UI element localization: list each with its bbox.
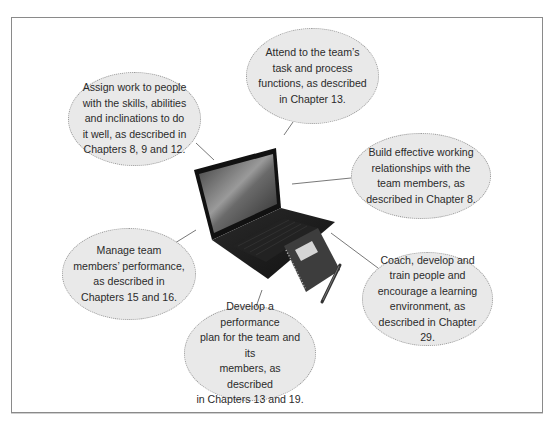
bubble-build-relationships: Build effective working relationships wi…: [351, 133, 491, 219]
bubble-text-line: train people and: [373, 268, 482, 284]
bubble-text-line: plan for the team and its: [195, 330, 305, 361]
bubble-text-line: Coach, develop and: [373, 253, 482, 269]
bubble-coach-develop: Coach, develop and train people and enco…: [362, 252, 493, 346]
bubble-text-line: Develop a performance: [195, 299, 305, 330]
bubble-text-line: members, as described: [195, 361, 305, 392]
bubble-text-line: members’ performance,: [73, 259, 184, 275]
bubble-text-line: and inclinations to do: [83, 111, 187, 127]
bubble-text-line: Assign work to people: [83, 80, 187, 96]
bubble-text-line: team members, as: [366, 176, 476, 192]
bubble-text-line: in Chapters 13 and 19.: [195, 392, 305, 408]
bubble-text-line: Build effective working: [366, 145, 476, 161]
bubble-text-line: Manage team: [73, 243, 184, 259]
bubble-text-line: as described in: [73, 274, 184, 290]
bubble-text-line: relationships with the: [366, 161, 476, 177]
bubble-text-line: with the skills, abilities: [83, 96, 187, 112]
bubble-text-line: encourage a learning: [373, 284, 482, 300]
bubble-text-line: Chapters 15 and 16.: [73, 290, 184, 306]
bubble-manage-performance: Manage team members’ performance, as des…: [62, 228, 196, 320]
bubble-text-line: environment, as: [373, 299, 482, 315]
bubble-assign-work: Assign work to people with the skills, a…: [68, 72, 201, 166]
bubble-text-line: task and process: [258, 61, 366, 77]
bubble-text-line: Attend to the team’s: [258, 45, 366, 61]
bubble-develop-plan: Develop a performance plan for the team …: [184, 306, 316, 401]
bubble-text-line: described in Chapter 29.: [373, 315, 482, 346]
bubble-text-line: Chapters 8, 9 and 12.: [83, 142, 187, 158]
bubble-text-line: functions, as described: [258, 76, 366, 92]
bubble-text-line: described in Chapter 8.: [366, 192, 476, 208]
bubble-text-line: it well, as described in: [83, 127, 187, 143]
bubble-attend-task: Attend to the team’s task and process fu…: [246, 28, 379, 124]
bubble-text-line: in Chapter 13.: [258, 92, 366, 108]
